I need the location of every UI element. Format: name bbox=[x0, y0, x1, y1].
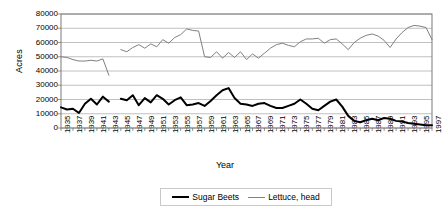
legend-swatch-icon-sugar-beets bbox=[172, 196, 189, 198]
legend-label-lettuce-head: Lettuce, head bbox=[268, 192, 320, 202]
legend-item-sugar-beets: Sugar Beets bbox=[172, 192, 239, 202]
legend-item-lettuce-head: Lettuce, head bbox=[248, 192, 320, 202]
chart-container: Acres Year 01000020000300004000050000600… bbox=[0, 0, 445, 216]
plot-area bbox=[0, 0, 445, 216]
legend-label-sugar-beets: Sugar Beets bbox=[192, 192, 239, 202]
chart-legend: Sugar Beets Lettuce, head bbox=[160, 188, 332, 206]
legend-swatch-icon-lettuce-head bbox=[248, 197, 265, 198]
